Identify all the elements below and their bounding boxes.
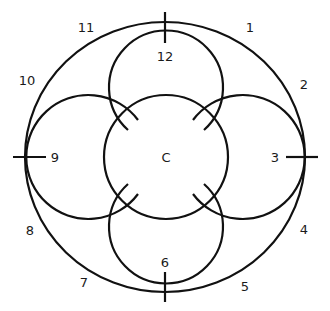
label-12: 12: [157, 50, 174, 63]
label-3: 3: [271, 151, 279, 164]
center-label: C: [161, 151, 170, 164]
label-10: 10: [19, 74, 36, 87]
label-1: 1: [246, 21, 254, 34]
label-4: 4: [300, 223, 308, 236]
label-7: 7: [80, 276, 88, 289]
label-5: 5: [241, 280, 249, 293]
label-9: 9: [51, 151, 59, 164]
label-11: 11: [78, 21, 95, 34]
petal-top-12: [109, 31, 223, 130]
label-8: 8: [26, 224, 34, 237]
label-2: 2: [300, 78, 308, 91]
label-6: 6: [161, 256, 169, 269]
